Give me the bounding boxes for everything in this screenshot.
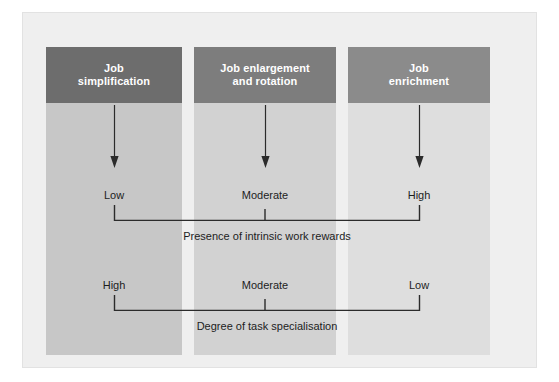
value-intrinsic-rewards-job-enrichment: High	[408, 189, 431, 201]
header-line-1-job-simplification: Job	[104, 62, 124, 74]
value-intrinsic-rewards-job-simplification: Low	[104, 189, 124, 201]
diagram-frame: Jobsimplification Job enlargementand rot…	[22, 12, 537, 368]
down-arrow-icon-job-enrichment	[414, 105, 425, 169]
header-text-job-simplification: Jobsimplification	[78, 62, 150, 89]
header-text-job-enrichment: Jobenrichment	[389, 62, 449, 89]
value-task-specialisation-job-enlargement-and-rotation: Moderate	[242, 279, 288, 291]
caption-degree-of-task-specialisation: Degree of task specialisation	[197, 320, 338, 332]
header-box-job-enrichment: Jobenrichment	[348, 47, 490, 103]
value-task-specialisation-job-simplification: High	[103, 279, 126, 291]
header-line-2-job-simplification: simplification	[78, 75, 150, 87]
header-box-job-enlargement-and-rotation: Job enlargementand rotation	[194, 47, 336, 103]
header-text-job-enlargement-and-rotation: Job enlargementand rotation	[220, 62, 310, 89]
down-arrow-icon-job-enlargement-and-rotation	[260, 105, 271, 169]
header-line-2-job-enrichment: enrichment	[389, 75, 449, 87]
diagram-canvas: Jobsimplification Job enlargementand rot…	[0, 0, 559, 382]
header-line-1-job-enlargement-and-rotation: Job enlargement	[220, 62, 310, 74]
value-task-specialisation-job-enrichment: Low	[409, 279, 429, 291]
down-arrow-icon-job-simplification	[109, 105, 120, 169]
header-box-job-simplification: Jobsimplification	[46, 47, 182, 103]
caption-presence-of-intrinsic-work-rewards: Presence of intrinsic work rewards	[183, 230, 351, 242]
value-intrinsic-rewards-job-enlargement-and-rotation: Moderate	[242, 189, 288, 201]
header-line-1-job-enrichment: Job	[409, 62, 429, 74]
bracket-connector-task-specialisation	[108, 293, 426, 313]
header-line-2-job-enlargement-and-rotation: and rotation	[233, 75, 298, 87]
bracket-connector-intrinsic-rewards	[108, 203, 426, 223]
